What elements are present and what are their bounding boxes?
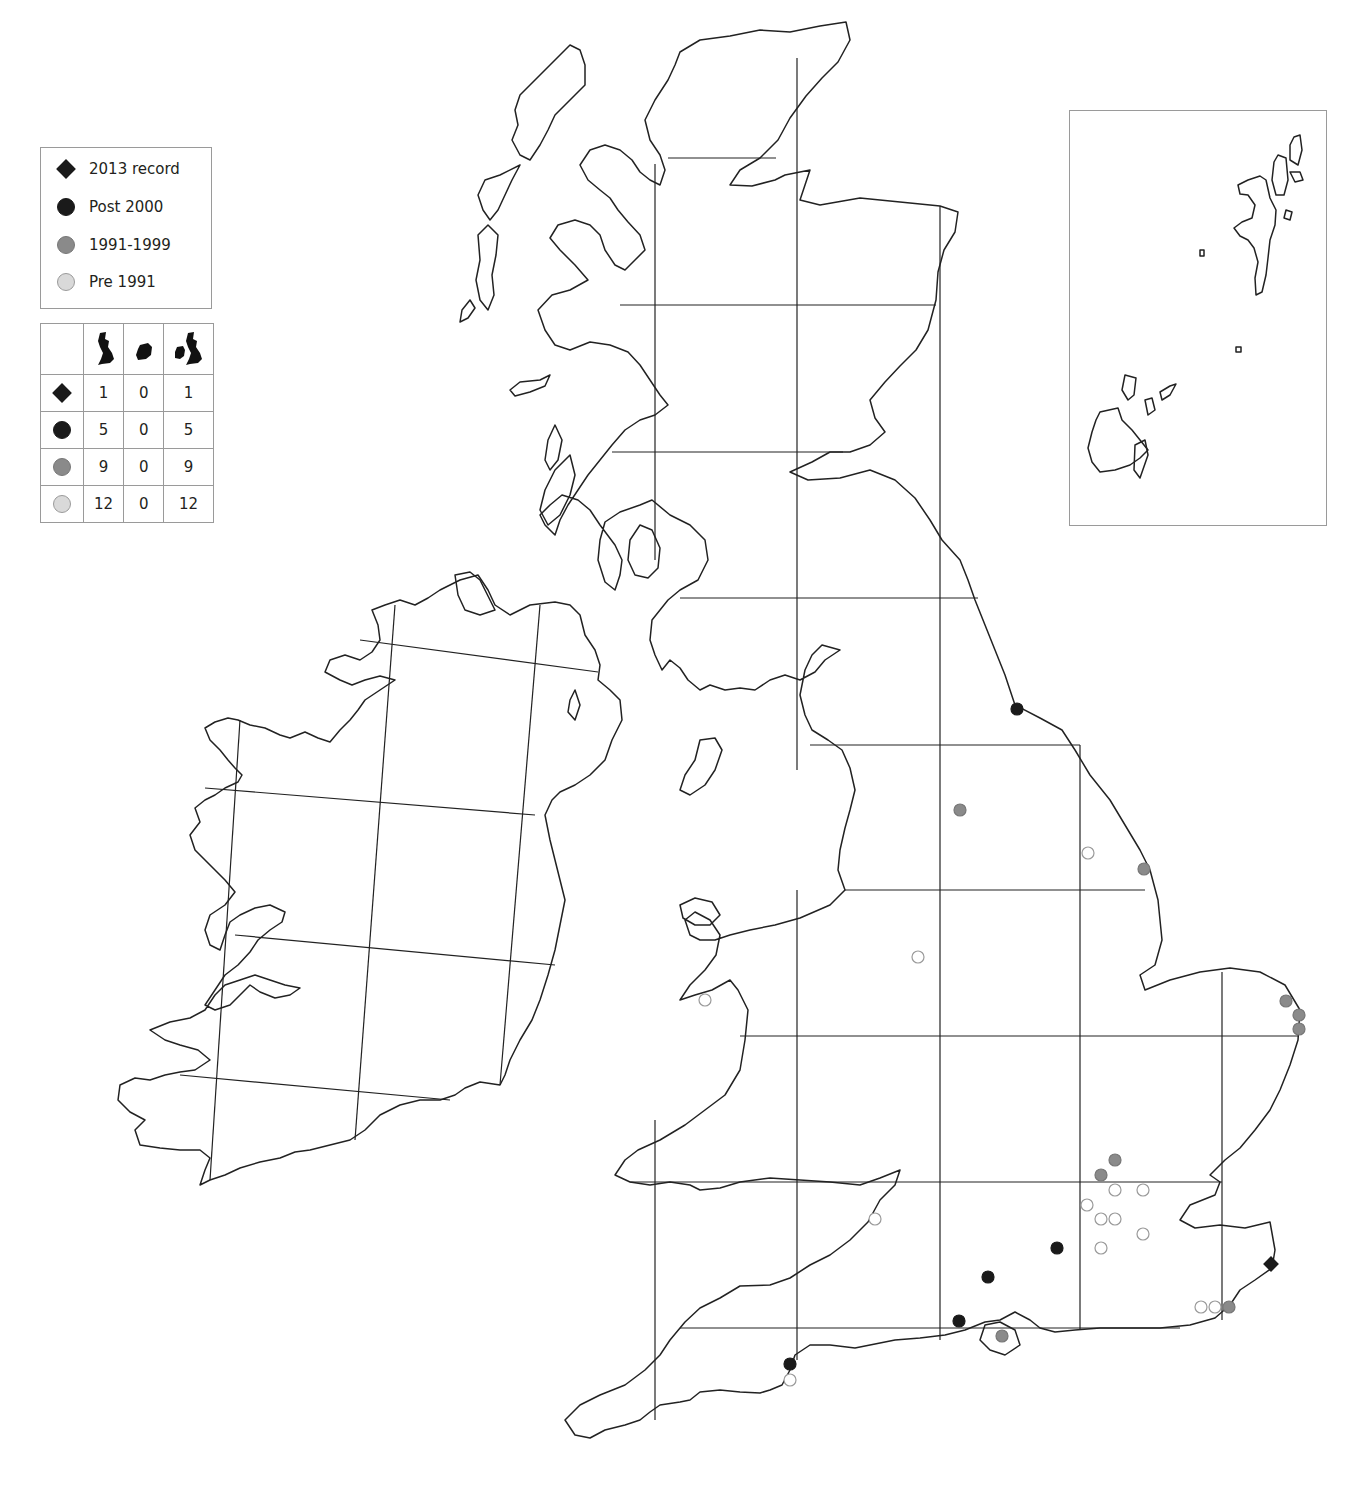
record-dot-icon [1082,847,1094,859]
record-dot-icon [996,1330,1008,1342]
ireland-grid [180,605,598,1180]
britain-and-ireland-map-icon [174,331,204,367]
legend-label: 1991-1999 [89,236,171,254]
record-dot-icon [1051,1242,1063,1254]
legend-label: Post 2000 [89,198,163,216]
record-counts-table: 1 0 1 5 0 5 9 0 9 12 0 12 [40,323,214,523]
record-dot-icon [1095,1213,1107,1225]
legend-item-post2000: Post 2000 [55,194,163,220]
ireland-map-icon [132,331,156,367]
count-total: 1 [164,375,214,412]
record-dot-icon [1137,1184,1149,1196]
record-diamond-icon [1264,1257,1278,1271]
black-dot-icon [53,421,71,439]
table-row: 5 0 5 [41,412,214,449]
great-britain-map-icon [92,331,116,367]
record-dot-icon [1195,1301,1207,1313]
record-dot-icon [1223,1301,1235,1313]
count-gb: 1 [84,375,124,412]
record-dot-icon [954,804,966,816]
column-ireland [124,324,164,375]
legend: 2013 record Post 2000 1991-1999 Pre 1991 [40,147,212,309]
table-header-row [41,324,214,375]
orkney-shetland-inset [1069,110,1327,526]
legend-label: Pre 1991 [89,273,156,291]
count-gb: 9 [84,449,124,486]
record-dot-icon [1209,1301,1221,1313]
legend-item-pre1991: Pre 1991 [55,269,156,295]
count-gb: 5 [84,412,124,449]
record-dot-icon [784,1358,796,1370]
count-total: 12 [164,486,214,523]
count-ireland: 0 [124,486,164,523]
record-dot-icon [953,1315,965,1327]
count-total: 9 [164,449,214,486]
legend-item-1991-1999: 1991-1999 [55,232,171,258]
count-ireland: 0 [124,449,164,486]
light-grey-dot-icon [53,495,71,513]
record-dot-icon [1109,1154,1121,1166]
count-ireland: 0 [124,412,164,449]
record-dot-icon [1109,1213,1121,1225]
record-dot-icon [1138,863,1150,875]
grey-dot-icon [57,236,75,254]
legend-label: 2013 record [89,160,180,178]
table-row: 12 0 12 [41,486,214,523]
hebrides-outline [460,45,660,578]
record-points [699,703,1305,1386]
record-dot-icon [1109,1184,1121,1196]
count-gb: 12 [84,486,124,523]
light-grey-dot-icon [57,273,75,291]
column-total [164,324,214,375]
record-dot-icon [699,994,711,1006]
record-dot-icon [1095,1169,1107,1181]
record-dot-icon [1011,703,1023,715]
record-dot-icon [1293,1009,1305,1021]
count-total: 5 [164,412,214,449]
diamond-icon [52,383,72,403]
record-dot-icon [1081,1199,1093,1211]
record-dot-icon [1137,1228,1149,1240]
record-dot-icon [1293,1023,1305,1035]
diamond-icon [56,159,76,179]
record-dot-icon [1280,995,1292,1007]
grey-dot-icon [53,458,71,476]
count-ireland: 0 [124,375,164,412]
record-dot-icon [912,951,924,963]
record-dot-icon [1095,1242,1107,1254]
record-dot-icon [869,1213,881,1225]
table-row: 1 0 1 [41,375,214,412]
column-great-britain [84,324,124,375]
legend-item-2013: 2013 record [55,156,180,182]
table-row: 9 0 9 [41,449,214,486]
record-dot-icon [784,1374,796,1386]
record-dot-icon [982,1271,994,1283]
black-dot-icon [57,198,75,216]
